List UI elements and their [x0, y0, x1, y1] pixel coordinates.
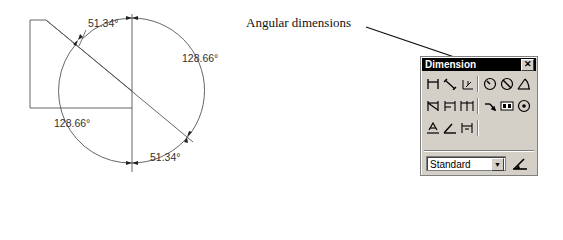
dimension-edit-button[interactable]	[424, 119, 441, 137]
tolerance-button[interactable]	[498, 97, 515, 115]
toolbar-row-1	[424, 74, 532, 94]
linear-dimension-button[interactable]	[424, 75, 441, 93]
dimension-edit-icon	[426, 122, 440, 134]
dimension-style-value: Standard	[430, 159, 471, 170]
diameter-dimension-icon	[500, 77, 514, 91]
dimension-toolbar: Dimension ✕	[420, 56, 538, 176]
baseline-dimension-button[interactable]	[441, 97, 458, 115]
toolbar-divider	[424, 150, 534, 152]
toolbar-title-bar[interactable]: Dimension ✕	[422, 58, 536, 71]
quick-dimension-icon	[426, 100, 440, 112]
toolbar-separator	[477, 120, 479, 136]
dimension-update-icon	[460, 122, 474, 134]
toolbar-title: Dimension	[425, 59, 476, 70]
chevron-down-icon[interactable]: ▼	[491, 158, 504, 171]
dimension-update-button[interactable]	[458, 119, 475, 137]
angular-dimension-icon	[517, 77, 531, 91]
continue-dimension-icon	[460, 100, 474, 112]
aligned-dimension-button[interactable]	[441, 75, 458, 93]
center-mark-icon	[517, 99, 531, 113]
dimension-text-edit-icon	[443, 122, 457, 134]
toolbar-row-2	[424, 96, 532, 116]
quick-dimension-button[interactable]	[424, 97, 441, 115]
close-button[interactable]: ✕	[521, 59, 534, 71]
dimension-style-button[interactable]	[511, 156, 529, 172]
diameter-dimension-button[interactable]	[498, 75, 515, 93]
dimension-style-select[interactable]: Standard ▼	[426, 156, 506, 171]
dimension-text-edit-button[interactable]	[441, 119, 458, 137]
toolbar-separator	[477, 98, 479, 114]
ordinate-dimension-icon	[460, 78, 474, 90]
leader-button[interactable]	[481, 97, 498, 115]
toolbar-row-3	[424, 118, 481, 138]
radius-dimension-icon	[483, 77, 497, 91]
toolbar-separator	[477, 76, 479, 92]
continue-dimension-button[interactable]	[458, 97, 475, 115]
angular-dimension-button[interactable]	[515, 75, 532, 93]
center-mark-button[interactable]	[515, 97, 532, 115]
aligned-dimension-icon	[443, 78, 457, 90]
dimension-style-icon	[512, 157, 528, 171]
ordinate-dimension-button[interactable]	[458, 75, 475, 93]
linear-dimension-icon	[426, 78, 440, 90]
baseline-dimension-icon	[443, 100, 457, 112]
radius-dimension-button[interactable]	[481, 75, 498, 93]
tolerance-icon	[500, 101, 514, 111]
leader-icon	[483, 100, 497, 112]
